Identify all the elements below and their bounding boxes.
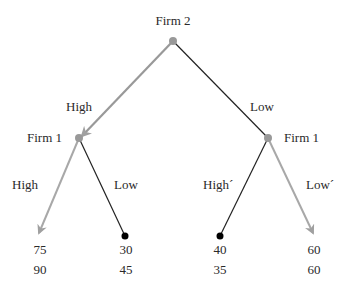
- edge-label-root-right: Low: [250, 100, 274, 114]
- edge-label-root-left: High: [66, 100, 92, 114]
- payoff-top: 60: [308, 240, 321, 260]
- payoff-leaf2: 30 45: [120, 240, 133, 280]
- right-player-label: Firm 1: [284, 131, 319, 145]
- terminal-dot-leaf3: [217, 233, 224, 240]
- right-decision-node: [264, 134, 272, 142]
- payoff-leaf3: 40 35: [214, 240, 227, 280]
- payoff-top: 75: [34, 240, 47, 260]
- edge-root-left: [82, 41, 173, 136]
- payoff-top: 40: [214, 240, 227, 260]
- payoff-bottom: 60: [308, 260, 321, 280]
- payoff-leaf1: 75 90: [34, 240, 47, 280]
- left-player-label: Firm 1: [27, 131, 62, 145]
- payoff-bottom: 90: [34, 260, 47, 280]
- edge-label-left-leaf1: High: [12, 178, 38, 192]
- root-node: [169, 37, 177, 45]
- left-decision-node: [75, 134, 83, 142]
- edge-label-left-leaf2: Low: [114, 178, 138, 192]
- payoff-top: 30: [120, 240, 133, 260]
- edge-left-leaf1: [39, 138, 79, 233]
- payoff-bottom: 45: [120, 260, 133, 280]
- edge-label-right-leaf3: High´: [203, 178, 233, 192]
- payoff-bottom: 35: [214, 260, 227, 280]
- terminal-dot-leaf2: [122, 233, 129, 240]
- root-player-label: Firm 2: [155, 14, 190, 28]
- payoff-leaf4: 60 60: [308, 240, 321, 280]
- edge-label-right-leaf4: Low´: [306, 178, 334, 192]
- edge-root-right: [173, 41, 268, 138]
